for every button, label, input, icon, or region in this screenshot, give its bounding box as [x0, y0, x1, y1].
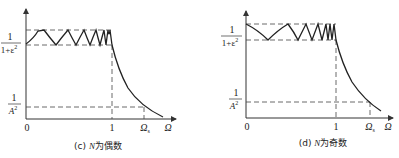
- svg-text:1+ε2: 1+ε2: [222, 37, 238, 48]
- chebyshev-response-diagram: 1 1+ε2 1 A2 0 1 Ωs Ω (c) N为偶数 1 1+ε2: [0, 0, 399, 158]
- origin-label: 0: [25, 122, 30, 133]
- cutoff-label: 1: [334, 121, 339, 132]
- svg-text:1: 1: [8, 31, 13, 42]
- caption-c: (c) N为偶数: [74, 140, 122, 151]
- cutoff-label: 1: [110, 122, 115, 133]
- magnitude-response-curve: [246, 24, 381, 111]
- svg-text:1: 1: [234, 87, 239, 98]
- svg-text:1: 1: [230, 24, 235, 35]
- passband-label: 1 1+ε2: [1, 31, 21, 55]
- x-axis-label: Ω: [164, 122, 171, 133]
- stop-freq-label: Ωs: [365, 121, 375, 133]
- svg-text:1: 1: [12, 92, 17, 103]
- figure-c: 1 1+ε2 1 A2 0 1 Ωs Ω (c) N为偶数: [1, 9, 176, 151]
- figure-d: 1 1+ε2 1 A2 0 1 Ωs Ω (d) N为奇数: [221, 11, 393, 148]
- origin-label: 0: [245, 121, 250, 132]
- stopband-label: 1 A2: [8, 92, 21, 116]
- svg-text:1+ε2: 1+ε2: [1, 44, 17, 55]
- svg-text:A2: A2: [8, 105, 18, 116]
- x-axis-label: Ω: [384, 121, 391, 132]
- magnitude-response-curve: [26, 30, 163, 117]
- passband-label: 1 1+ε2: [221, 24, 242, 48]
- stop-freq-label: Ωs: [140, 122, 150, 134]
- svg-text:A2: A2: [229, 100, 239, 111]
- caption-d: (d) N为奇数: [299, 137, 348, 148]
- stopband-label: 1 A2: [229, 87, 242, 111]
